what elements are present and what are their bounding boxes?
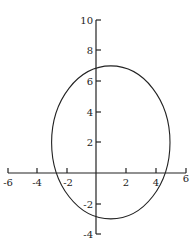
x-tick-label: 4 <box>153 177 159 188</box>
y-tick-label: 2 <box>87 137 93 148</box>
y-tick-label: -2 <box>83 199 93 210</box>
y-tick-label: 8 <box>87 45 93 56</box>
chart: -6 -4 -2 2 4 6 10 8 6 4 2 -2 -4 <box>0 0 191 243</box>
x-tick-label: -4 <box>32 177 42 188</box>
y-axis: 10 8 6 4 2 -2 -4 <box>80 15 101 240</box>
x-tick-label: 6 <box>183 173 189 184</box>
ellipse-curve <box>52 66 170 219</box>
y-tick-label: 10 <box>80 15 93 26</box>
x-tick-label: -6 <box>3 177 13 188</box>
x-tick-label: 2 <box>123 177 129 188</box>
y-tick-label: 6 <box>87 76 93 87</box>
x-tick-label: -2 <box>63 177 73 188</box>
y-tick-label: 4 <box>87 107 93 118</box>
y-tick-label: -4 <box>83 229 93 240</box>
